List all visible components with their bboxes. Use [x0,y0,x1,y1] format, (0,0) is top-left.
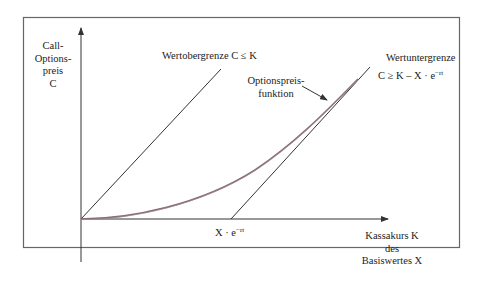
upper-bound-label: Wertobergrenze C ≤ K [162,50,257,63]
lower-bound-formula-exp: −rt [435,69,443,77]
price-function-label-line: funktion [246,88,306,101]
option-price-curve [81,79,358,219]
x-tick-label-exp: −rt [236,226,244,234]
x-axis-label-line: des [352,243,432,256]
lower-bound-formula-base: C ≥ K – X · e [378,70,435,81]
y-axis-label-line: C [34,78,72,91]
x-tick-label-base: X · e [215,227,236,238]
y-axis-label: Call- Options- preis C [34,40,72,90]
x-axis-label: Kassakurs K des Basiswertes X [352,230,432,268]
lower-bound-formula: C ≥ K – X · e−rt [378,70,443,83]
x-axis-label-line: Kassakurs K [352,230,432,243]
option-price-curve-shadow [81,80,358,220]
lower-bound-label: Wertuntergrenze [386,52,456,65]
y-axis-label-line: preis [34,65,72,78]
price-function-label-line: Optionspreis- [246,75,306,88]
x-tick-label: X · e−rt [215,227,244,240]
y-axis-label-line: Options- [34,53,72,66]
x-axis-label-line: Basiswertes X [352,255,432,268]
y-axis-label-line: Call- [34,40,72,53]
price-function-label: Optionspreis- funktion [246,75,306,100]
